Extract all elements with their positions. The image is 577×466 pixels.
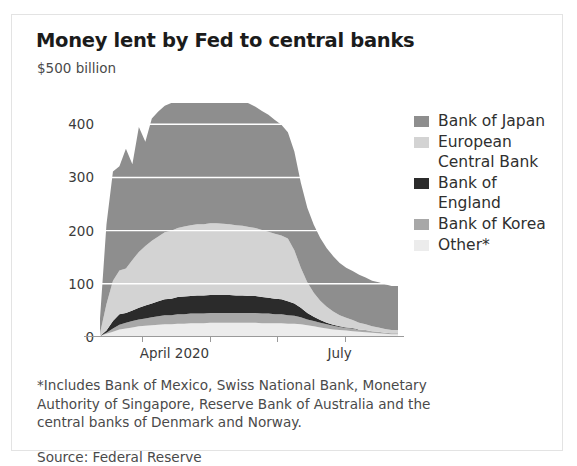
legend-swatch-icon-other bbox=[414, 240, 429, 251]
y-tick-label-200: 200 bbox=[48, 223, 94, 239]
x-tick-label-0: April 2020 bbox=[140, 345, 210, 361]
legend-item-other[interactable]: Other* bbox=[414, 235, 564, 255]
y-tick-label-100: 100 bbox=[48, 276, 94, 292]
legend-label-other: Other* bbox=[438, 235, 490, 255]
legend-swatch-icon-bank_of_korea bbox=[414, 219, 429, 230]
legend-label-bank_of_japan: Bank of Japan bbox=[438, 111, 545, 131]
chart-source: Source: Federal Reserve bbox=[37, 449, 202, 465]
x-tick-2 bbox=[277, 337, 278, 342]
chart-legend: Bank of JapanEuropean Central BankBank o… bbox=[414, 111, 564, 256]
x-tick-1 bbox=[210, 337, 211, 342]
legend-label-bank_of_england: Bank of England bbox=[438, 173, 564, 213]
legend-label-bank_of_korea: Bank of Korea bbox=[438, 214, 546, 234]
legend-swatch-icon-bank_of_england bbox=[414, 178, 429, 189]
chart-title: Money lent by Fed to central banks bbox=[36, 29, 414, 52]
legend-item-bank_of_japan[interactable]: Bank of Japan bbox=[414, 111, 564, 131]
y-axis-labels: 0100200300400 bbox=[38, 103, 94, 337]
legend-swatch-icon-european_central_bank bbox=[414, 137, 429, 148]
chart-footnote: *Includes Bank of Mexico, Swiss National… bbox=[37, 376, 447, 432]
x-axis-line bbox=[84, 336, 404, 337]
chart-unit-label: $500 billion bbox=[37, 60, 116, 76]
x-tick-0 bbox=[142, 337, 143, 342]
chart-card: Money lent by Fed to central banks $500 … bbox=[11, 14, 563, 451]
area-series-group bbox=[100, 103, 398, 337]
y-tick-label-0: 0 bbox=[48, 329, 94, 345]
x-tick-3 bbox=[345, 337, 346, 342]
legend-label-european_central_bank: European Central Bank bbox=[438, 132, 564, 172]
legend-swatch-icon-bank_of_japan bbox=[414, 116, 429, 127]
y-tick-label-400: 400 bbox=[48, 116, 94, 132]
x-tick-label-1: July bbox=[327, 345, 351, 361]
legend-item-bank_of_england[interactable]: Bank of England bbox=[414, 173, 564, 213]
legend-item-bank_of_korea[interactable]: Bank of Korea bbox=[414, 214, 564, 234]
legend-item-european_central_bank[interactable]: European Central Bank bbox=[414, 132, 564, 172]
stacked-area-plot bbox=[100, 103, 398, 337]
plot-svg bbox=[100, 103, 398, 337]
y-tick-label-300: 300 bbox=[48, 169, 94, 185]
